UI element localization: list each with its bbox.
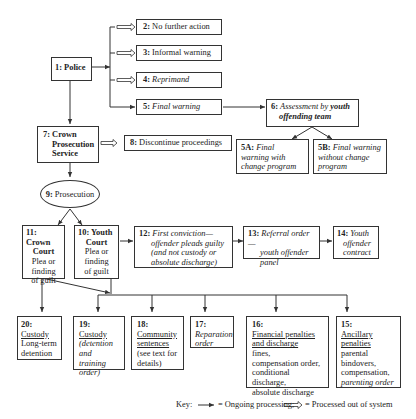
key-out-of-system-label: = Processed out of system <box>305 400 393 409</box>
node-label: contract <box>337 248 375 258</box>
node-label: Service <box>43 149 78 158</box>
node-financial-penalties: 16: Financial penalties and discharge fi… <box>246 316 329 388</box>
node-label: Reparation <box>195 330 229 340</box>
node-title: Custody <box>79 330 119 340</box>
node-label: offending team <box>271 112 331 121</box>
node-police: 1: Police <box>51 57 92 81</box>
node-text: finding <box>78 257 115 267</box>
node-number: 5B: <box>318 143 331 152</box>
node-text: details) <box>137 359 178 369</box>
node-number: 19: <box>79 320 119 330</box>
node-title: Crown <box>26 238 51 247</box>
node-text: bindovers, <box>341 359 396 369</box>
node-number: 5A: <box>241 143 254 152</box>
key-prefix: Key: <box>176 400 192 409</box>
node-number: 14: <box>337 229 348 238</box>
node-label: Prosecution <box>55 190 95 199</box>
node-title: Court <box>26 247 61 257</box>
node-text: Long-term <box>21 339 58 349</box>
node-text: compensation, <box>341 368 396 378</box>
node-number: 9: <box>46 190 53 199</box>
node-number: 16: <box>252 320 323 330</box>
node-title: penalties <box>341 339 396 349</box>
node-number: 12: <box>139 229 150 238</box>
node-title: Youth <box>91 228 112 237</box>
node-label: Prosecution <box>43 140 94 149</box>
node-number: 17: <box>195 320 229 330</box>
node-title: Court <box>78 238 115 248</box>
node-label: Informal warning <box>152 48 211 57</box>
node-text: finding <box>26 267 61 277</box>
node-label: (and not custody or <box>139 248 228 258</box>
node-youth-offender-contract: 14: Youth offender contract <box>333 226 379 259</box>
node-text: parental <box>341 349 396 359</box>
node-number: 11: <box>26 228 37 237</box>
node-ancillary-penalties: 15: Ancillary penalties parental bindove… <box>336 316 401 388</box>
node-label: order <box>195 339 229 349</box>
arrow-ongoing-icon <box>198 402 214 408</box>
node-final-warning: 5: Final warning <box>136 99 222 115</box>
node-first-conviction: 12: First conviction— offender pleads gu… <box>134 226 233 268</box>
node-number: 15: <box>341 320 396 330</box>
key-ongoing-label: = Ongoing processing; <box>218 400 294 409</box>
node-number: 20: <box>21 320 58 330</box>
node-label: No further action <box>152 22 210 31</box>
node-label: Youth <box>350 229 369 238</box>
node-title: Custody <box>21 330 58 340</box>
node-number: 10: <box>78 228 89 237</box>
node-label: youth <box>330 102 350 111</box>
node-text: Plea or <box>26 257 61 267</box>
node-title: Community <box>137 330 178 340</box>
node-crown-court: 11: Crown Court Plea or finding of guilt <box>22 225 65 279</box>
node-number: 1: <box>55 63 62 72</box>
node-number: 6: <box>271 102 278 111</box>
node-label: Reprimand <box>152 75 189 84</box>
node-title: Financial penalties <box>252 330 323 340</box>
node-label: Assessment by <box>280 102 328 111</box>
node-label: offender <box>337 239 375 249</box>
node-assessment-yot: 6: Assessment by youth offending team <box>266 99 359 127</box>
node-reprimand: 4: Reprimand <box>136 72 222 88</box>
node-discontinue-proceedings: 8: Discontinue proceedings <box>124 135 232 151</box>
node-label: panel <box>248 258 315 268</box>
node-text: of guilt <box>78 267 115 277</box>
node-text: compensation order, <box>252 359 323 369</box>
node-text: and training <box>79 349 119 368</box>
node-text: Plea or <box>78 247 115 257</box>
node-text: fines, <box>252 349 323 359</box>
node-number: 2: <box>143 22 150 31</box>
node-final-warning-without-change: 5B: Final warning without change program <box>313 139 387 174</box>
arrow-processed-out-icon <box>284 401 302 409</box>
node-text: parenting order <box>341 378 396 388</box>
node-text: order) <box>79 368 119 378</box>
node-label: First conviction— <box>152 229 213 238</box>
node-reparation-order: 17: Reparation order <box>190 316 234 348</box>
node-prosecution: 9: Prosecution <box>40 180 100 208</box>
node-title: Ancillary <box>341 330 396 340</box>
node-youth-court: 10: Youth Court Plea or finding of guilt <box>74 225 119 279</box>
node-text: conditional discharge, <box>252 368 323 387</box>
node-number: 13: <box>248 229 259 238</box>
node-informal-warning: 3: Informal warning <box>136 45 222 61</box>
node-text: of guilt <box>26 276 61 286</box>
node-number: 18: <box>137 320 178 330</box>
node-number: 3: <box>143 48 150 57</box>
node-title: sentences <box>137 339 178 349</box>
node-label: Police <box>64 63 85 72</box>
node-label: Crown <box>52 130 77 139</box>
node-custody-long-term: 20: Custody Long-term detention <box>17 316 62 360</box>
node-number: 5: <box>143 102 150 111</box>
node-referral-order: 13: Referral order— youth offender panel <box>243 226 320 259</box>
node-number: 4: <box>143 75 150 84</box>
node-final-warning-with-change: 5A: Final warning with change program <box>236 139 309 174</box>
node-number: 8: <box>130 138 137 147</box>
node-label: absolute discharge) <box>139 258 228 268</box>
node-text: detention <box>21 349 58 359</box>
node-text: (see text for <box>137 349 178 359</box>
node-number: 7: <box>43 130 50 139</box>
node-label: youth offender <box>248 248 315 258</box>
node-no-further-action: 2: No further action <box>136 19 222 35</box>
node-label: Final warning <box>152 102 200 111</box>
node-text: absolute discharge <box>252 388 323 398</box>
node-community-sentences: 18: Community sentences (see text for de… <box>131 316 184 370</box>
